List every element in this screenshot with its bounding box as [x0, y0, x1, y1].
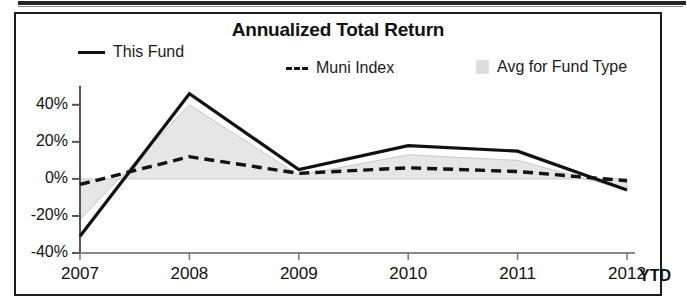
x-axis-tick-label: 2009 [264, 264, 334, 284]
y-axis-tick-label: -40% [16, 243, 68, 261]
x-axis-tick-label: 2011 [483, 264, 553, 284]
y-axis-tick-label: -20% [16, 206, 68, 224]
plot-area [16, 14, 664, 298]
y-axis-tick-label: 20% [16, 132, 68, 150]
x-axis-tick-label: 2007 [45, 264, 115, 284]
y-axis-tick-label: 40% [16, 95, 68, 113]
x-axis-ytd-label: YTD [639, 267, 671, 285]
x-axis-tick-label: 2010 [373, 264, 443, 284]
annualized-total-return-panel: Annualized Total Return This Fund Muni I… [14, 12, 662, 296]
y-axis-tick-label: 0% [16, 169, 68, 187]
x-axis-tick-label: 2008 [154, 264, 224, 284]
scan-artifact-rule-thin [18, 6, 683, 7]
scan-artifact-rule [18, 1, 686, 5]
chart-plot-svg [16, 14, 664, 298]
